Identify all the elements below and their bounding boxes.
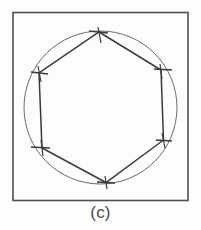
figure-background: [0, 0, 201, 230]
figure-panel: (c): [0, 0, 201, 230]
vertex-tick-v5: [31, 147, 50, 148]
vertex-tick-v2: [154, 69, 172, 70]
vertex-tick-v3: [156, 140, 172, 141]
vertex-tick-v4: [97, 182, 115, 183]
geometry-diagram: [0, 0, 201, 230]
